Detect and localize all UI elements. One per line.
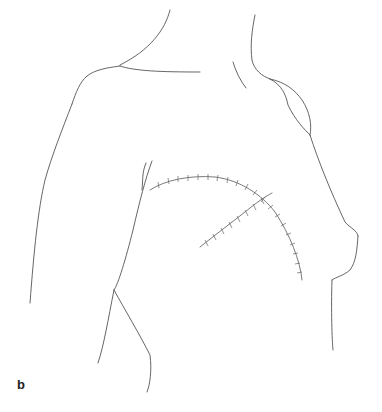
back-line [114, 290, 151, 392]
jaw-line [251, 15, 270, 79]
breast-line [332, 236, 358, 280]
right-shoulder-line [270, 79, 311, 135]
shoulder-line [72, 66, 120, 104]
secondary-suture [200, 193, 272, 247]
torso-left-line [114, 161, 152, 290]
chin-stroke [233, 62, 246, 88]
neck-line [120, 10, 170, 65]
panel-label: b [17, 378, 25, 391]
clavicle-line [120, 66, 200, 72]
torso-drawing [0, 0, 382, 412]
chest-line [310, 135, 358, 236]
torso-right-line [332, 280, 333, 350]
arm-inner-line [98, 290, 114, 363]
arm-outer-line [30, 104, 72, 303]
medical-illustration: b [0, 0, 382, 412]
